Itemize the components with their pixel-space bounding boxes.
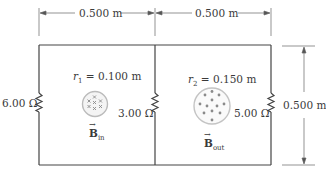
dimension-top-right-label: 0.500 m [195, 8, 238, 19]
field-in-subscript: in [98, 134, 105, 142]
radius-right-label: r2 = 0.150 m [188, 74, 256, 88]
radius-right-value: = 0.150 m [201, 73, 257, 85]
radius-left-label: r1 = 0.100 m [73, 71, 141, 85]
field-out-label: Bout [204, 138, 224, 152]
field-in-symbol: B [89, 128, 98, 139]
field-out-symbol: B [204, 138, 213, 149]
resistor-middle-label: 3.00 Ω [118, 108, 153, 119]
field-region-out-icon [194, 88, 230, 124]
field-out-subscript: out [213, 144, 225, 152]
radius-left-value: = 0.100 m [86, 70, 142, 82]
radius-left-index: 1 [78, 77, 82, 85]
field-in-label: Bin [89, 128, 105, 142]
circuit-wires [36, 45, 274, 165]
resistor-right-label: 5.00 Ω [234, 108, 269, 119]
dimension-right-height-label: 0.500 m [283, 100, 326, 111]
resistor-left-label: 6.00 Ω [2, 98, 37, 109]
dimension-lines [39, 8, 315, 165]
dimension-top-left-label: 0.500 m [79, 8, 122, 19]
field-region-in-icon [83, 92, 108, 117]
radius-right-index: 2 [193, 80, 197, 88]
